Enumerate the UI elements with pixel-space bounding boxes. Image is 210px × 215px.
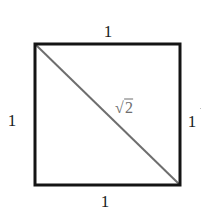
- radical-sign: √: [115, 99, 124, 116]
- radicand: 2: [124, 99, 133, 116]
- bottom-side-label: 1: [101, 193, 110, 210]
- top-side-label: 1: [104, 23, 113, 40]
- diagonal-line: [36, 45, 179, 184]
- right-side-label: 1: [188, 113, 197, 130]
- square-root-expression: √2: [115, 99, 133, 116]
- left-side-label: 1: [8, 112, 17, 129]
- diagonal-length-label: √2: [115, 99, 133, 116]
- unit-square-diagram: 1 1 1 1 √2: [0, 0, 210, 215]
- scan-speck: [200, 108, 201, 109]
